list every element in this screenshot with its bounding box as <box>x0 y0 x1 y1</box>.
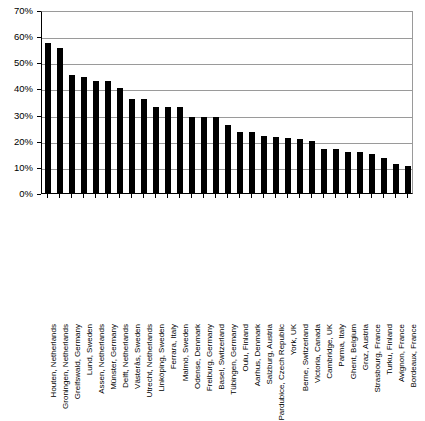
bar <box>297 139 303 193</box>
x-axis-tick-label: Utrecht, Netherlands <box>146 324 154 397</box>
bar <box>333 149 339 193</box>
y-axis-tick-label: 20% <box>14 137 33 147</box>
x-axis-tick-label: Aarhus, Denmark <box>254 324 262 386</box>
x-axis-tick-label: Houten, Netherlands <box>50 324 58 397</box>
bar <box>285 138 291 193</box>
bar <box>321 149 327 193</box>
x-axis-tick-label: Odense, Denmark <box>194 324 202 389</box>
bar <box>405 166 411 193</box>
bar <box>381 158 387 193</box>
bar <box>273 137 279 193</box>
bar <box>237 132 243 193</box>
bar <box>93 81 99 193</box>
bar <box>225 125 231 193</box>
bar <box>57 48 63 193</box>
x-axis-tick-label: Graz, Austria <box>362 324 370 370</box>
plot-area <box>41 11 413 194</box>
x-axis-tick-label: Delft, Netherlands <box>122 324 130 388</box>
y-axis-tick-label: 30% <box>14 111 33 121</box>
bars-group <box>42 12 412 193</box>
x-axis-tick-label: Pardubice, Czech Republic <box>278 324 286 421</box>
bar <box>201 117 207 193</box>
y-axis: 0%10%20%30%40%50%60%70% <box>0 0 38 200</box>
bar <box>81 77 87 193</box>
y-axis-tick-label: 70% <box>14 6 33 16</box>
x-axis-tick-label: Lund, Sweden <box>86 324 94 375</box>
x-axis-tick-label: Ghent, Belgium <box>350 324 358 379</box>
bar <box>249 132 255 193</box>
x-axis-tick-label: Assen, Netherlands <box>98 324 106 394</box>
bar <box>261 136 267 194</box>
x-axis-tick-label: Berne, Switzerland <box>302 324 310 391</box>
x-axis-tick-label: Ferrara, Italy <box>170 324 178 369</box>
x-axis-tick-label: Bordeaux, France <box>410 324 418 388</box>
x-axis-tick-label: Cambridge, UK <box>326 324 334 379</box>
bar <box>213 117 219 193</box>
bar <box>117 88 123 193</box>
y-axis-tick-label: 60% <box>14 32 33 42</box>
x-axis-tick-label: York, UK <box>290 324 298 355</box>
x-axis-tick-label: Basel, Switzerland <box>218 324 226 390</box>
x-axis-tick-label: Victoria, Canada <box>314 324 322 383</box>
x-axis-tick-label: Tübingen, Germany <box>230 324 238 395</box>
bar <box>129 99 135 193</box>
y-axis-tick-label: 50% <box>14 59 33 69</box>
x-axis-tick-label: Groningen, Netherlands <box>62 324 70 409</box>
bar <box>177 107 183 193</box>
x-axis-category-labels: Houten, NetherlandsGroningen, Netherland… <box>41 198 413 326</box>
x-axis-tick-label: Freiburg, Germany <box>206 324 214 391</box>
bar <box>165 107 171 193</box>
bar <box>345 152 351 193</box>
x-axis-tick-label: Avignon, France <box>398 324 406 382</box>
x-axis-tick-label: Turku, Finland <box>386 324 394 375</box>
bar <box>153 107 159 193</box>
x-axis-tick-label: Salzburg, Austria <box>266 324 274 384</box>
y-axis-tick-label: 10% <box>14 163 33 173</box>
bar <box>141 99 147 193</box>
x-axis-tick-label: Oulu, Finland <box>242 324 250 372</box>
x-axis-tick-label: Strasbourg, France <box>374 324 382 392</box>
x-axis-tick-label: Malmö, Sweden <box>182 324 190 381</box>
x-axis-tick-label: Münster, Germany <box>110 324 118 390</box>
bar <box>393 164 399 193</box>
bar <box>357 152 363 193</box>
x-axis-tick-label: Västerås, Sweden <box>134 324 142 389</box>
bar <box>69 75 75 193</box>
bar <box>105 81 111 193</box>
y-axis-tick-label: 40% <box>14 85 33 95</box>
bar <box>309 141 315 193</box>
y-axis-tick-label: 0% <box>19 189 33 199</box>
x-axis-tick-label: Greifswald, Germany <box>74 324 82 399</box>
bar <box>189 117 195 193</box>
bar <box>45 43 51 193</box>
x-axis-tick-label: Parma, Italy <box>338 324 346 367</box>
x-axis-tick-label: Linköping, Sweden <box>158 324 166 392</box>
bar <box>369 154 375 193</box>
